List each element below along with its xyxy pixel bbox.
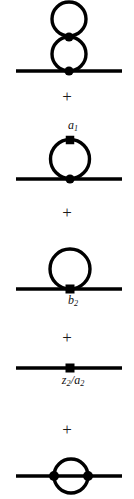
label-z2-over-a2: z2/a2 (0, 374, 134, 388)
vertex-dot-right (83, 471, 93, 481)
loop (51, 140, 90, 179)
plus-operator-4: + (0, 421, 134, 438)
vertex-dot-middle (64, 32, 73, 41)
label-a1-subscript: 1 (74, 124, 78, 133)
label-b2-subscript: 2 (74, 299, 78, 308)
counterterm-insertion-diagram (16, 364, 122, 373)
vertex-square-a1 (66, 136, 75, 145)
vertex-dot-base (64, 66, 73, 75)
loop (50, 249, 90, 289)
vertex-square-z2-a2 (66, 364, 75, 373)
vertex-dot-base (65, 174, 74, 183)
plus-operator-1: + (0, 88, 134, 105)
plus-operator-2: + (0, 204, 134, 221)
feynman-diagram-expansion: + + + + a1 b2 z2/a2 (0, 0, 134, 499)
loop-upper (52, 2, 86, 36)
sunset-diagram (16, 459, 122, 493)
tadpole-with-b2-vertex-diagram (16, 249, 122, 294)
tadpole-with-a1-insertion-diagram (16, 136, 122, 184)
plus-operator-3: + (0, 329, 134, 346)
label-a2-subscript: 2 (80, 379, 84, 388)
label-b2: b2 (0, 294, 134, 308)
vertex-dot-left (49, 471, 59, 481)
loop-lower (52, 37, 86, 71)
double-tadpole-diagram (16, 2, 122, 76)
label-a1: a1 (0, 119, 134, 133)
